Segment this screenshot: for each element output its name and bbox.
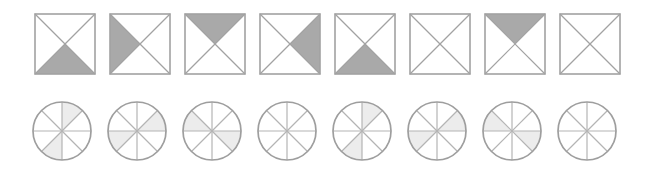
- square-8: [559, 13, 621, 75]
- square-6: [409, 13, 471, 75]
- square-7: [484, 13, 546, 75]
- circle-glyph: [31, 100, 93, 162]
- square-5: [334, 13, 396, 75]
- square-glyph: [259, 13, 321, 75]
- square-1: [34, 13, 96, 75]
- circle-8: [556, 100, 618, 162]
- square-glyph: [559, 13, 621, 75]
- square-glyph: [34, 13, 96, 75]
- square-glyph: [184, 13, 246, 75]
- circle-glyph: [481, 100, 543, 162]
- square-2: [109, 13, 171, 75]
- square-glyph: [484, 13, 546, 75]
- circle-3: [181, 100, 243, 162]
- circle-4: [256, 100, 318, 162]
- circle-glyph: [256, 100, 318, 162]
- square-glyph: [109, 13, 171, 75]
- circle-glyph: [406, 100, 468, 162]
- circle-glyph: [106, 100, 168, 162]
- circle-2: [106, 100, 168, 162]
- square-glyph: [409, 13, 471, 75]
- figure-canvas: [0, 0, 648, 178]
- circle-7: [481, 100, 543, 162]
- square-glyph: [334, 13, 396, 75]
- circle-glyph: [331, 100, 393, 162]
- circle-glyph: [181, 100, 243, 162]
- squares-row: [0, 8, 648, 80]
- circle-glyph: [556, 100, 618, 162]
- circle-5: [331, 100, 393, 162]
- circles-row: [0, 92, 648, 170]
- circle-1: [31, 100, 93, 162]
- circle-6: [406, 100, 468, 162]
- square-3: [184, 13, 246, 75]
- square-4: [259, 13, 321, 75]
